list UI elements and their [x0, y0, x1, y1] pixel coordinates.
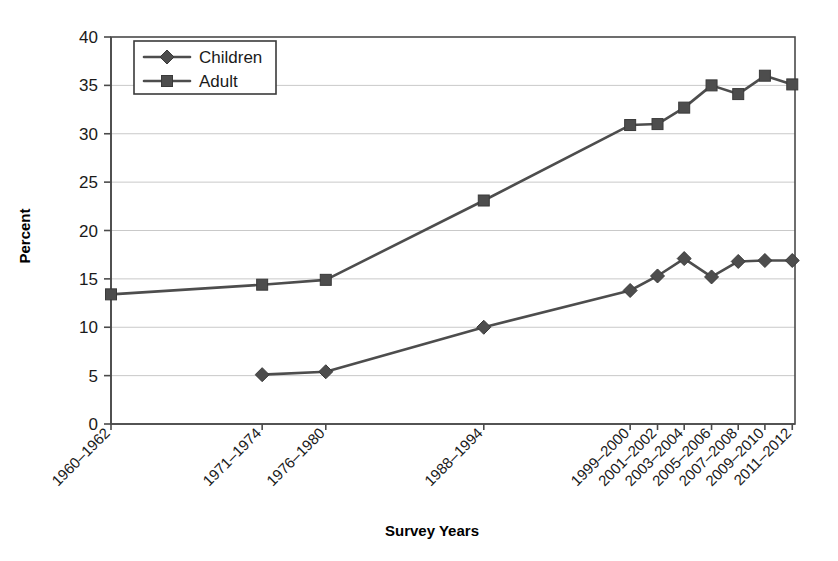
data-point-marker-square: [257, 279, 268, 290]
line-chart-figure: 0510152025303540 1960–19621971–19741976–…: [0, 0, 838, 561]
data-point-marker-square: [787, 79, 798, 90]
data-point-marker-square: [679, 102, 690, 113]
y-tick-label: 5: [89, 367, 98, 386]
data-point-marker-square: [733, 89, 744, 100]
data-point-marker-square: [625, 120, 636, 131]
y-tick-label: 10: [79, 318, 98, 337]
y-tick-label: 40: [79, 28, 98, 47]
y-tick-label: 35: [79, 76, 98, 95]
data-point-marker-square: [162, 76, 173, 87]
y-axis-title: Percent: [16, 208, 33, 263]
data-point-marker-square: [759, 70, 770, 81]
data-point-marker-square: [320, 274, 331, 285]
data-point-marker-square: [478, 195, 489, 206]
y-tick-label: 15: [79, 270, 98, 289]
y-tick-label: 30: [79, 125, 98, 144]
legend[interactable]: ChildrenAdult: [134, 41, 276, 94]
data-point-marker-square: [652, 119, 663, 130]
data-point-marker-square: [106, 289, 117, 300]
legend-label-adult: Adult: [199, 72, 238, 91]
data-point-marker-square: [706, 80, 717, 91]
x-axis-title: Survey Years: [385, 522, 479, 539]
y-tick-label: 20: [79, 222, 98, 241]
legend-label-children: Children: [199, 48, 262, 67]
y-tick-label: 25: [79, 173, 98, 192]
